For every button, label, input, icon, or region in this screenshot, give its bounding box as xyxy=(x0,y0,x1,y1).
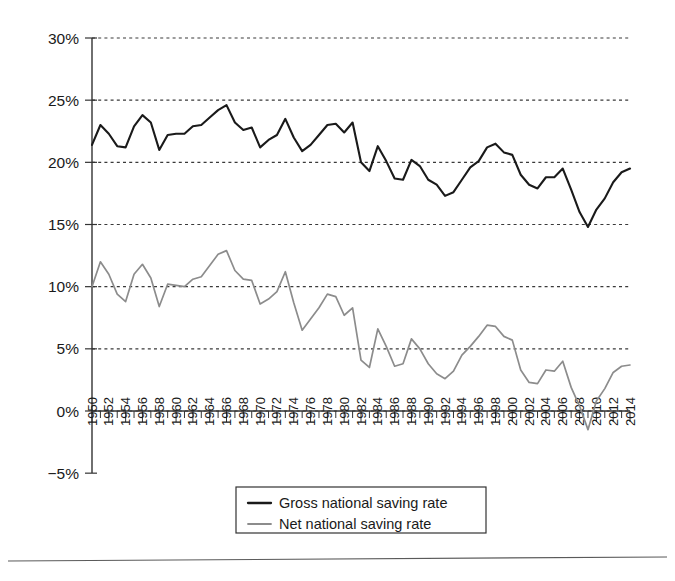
chart-figure: 30%25%20%15%10%5%0%−5% 19501952195419561… xyxy=(0,0,675,581)
x-tick-label: 1964 xyxy=(202,397,217,426)
y-tick-label: 30% xyxy=(48,30,79,47)
x-tick-label: 1962 xyxy=(185,397,200,426)
x-tick-label: 2014 xyxy=(623,397,638,426)
x-tick-label: 1974 xyxy=(286,397,301,426)
legend-label-1: Net national saving rate xyxy=(279,516,431,532)
x-tick-label: 1982 xyxy=(354,397,369,426)
x-tick-label: 2000 xyxy=(505,397,520,426)
y-tick-label: 25% xyxy=(48,92,79,109)
x-tick-label: 1966 xyxy=(219,397,234,426)
x-tick-label: 2006 xyxy=(555,397,570,426)
y-tick-label: 20% xyxy=(48,154,79,171)
x-tick-label: 1992 xyxy=(438,397,453,426)
x-tick-label: 1994 xyxy=(454,397,469,426)
x-tick-label: 1998 xyxy=(488,397,503,426)
y-tick-label: −5% xyxy=(48,465,80,482)
x-tick-label: 1950 xyxy=(85,397,100,426)
x-tick-label: 1968 xyxy=(236,397,251,426)
legend-label-0: Gross national saving rate xyxy=(279,495,447,511)
x-tick-label: 1978 xyxy=(320,397,335,426)
y-tick-label: 0% xyxy=(57,403,80,420)
x-tick-label: 2012 xyxy=(606,397,621,426)
y-tick-label: 15% xyxy=(48,216,79,233)
x-tick-label: 1956 xyxy=(135,397,150,426)
x-tick-label: 1984 xyxy=(370,397,385,426)
x-tick-label: 1960 xyxy=(169,397,184,426)
x-tick-label: 2002 xyxy=(522,397,537,426)
chart-background xyxy=(0,0,675,581)
national-saving-rate-line-chart: 30%25%20%15%10%5%0%−5% 19501952195419561… xyxy=(0,0,675,581)
x-tick-label: 1980 xyxy=(337,397,352,426)
x-tick-label: 1996 xyxy=(471,397,486,426)
x-tick-label: 1954 xyxy=(118,397,133,426)
x-tick-label: 2004 xyxy=(538,397,553,426)
x-tick-label: 1972 xyxy=(269,397,284,426)
x-tick-label: 1990 xyxy=(421,397,436,426)
y-tick-label: 5% xyxy=(57,340,80,357)
x-tick-label: 1986 xyxy=(387,397,402,426)
x-tick-label: 1988 xyxy=(404,397,419,426)
x-tick-label: 1976 xyxy=(303,397,318,426)
x-tick-label: 1970 xyxy=(253,397,268,426)
x-tick-label: 1952 xyxy=(101,397,116,426)
y-tick-label: 10% xyxy=(48,278,79,295)
x-tick-label: 1958 xyxy=(152,397,167,426)
